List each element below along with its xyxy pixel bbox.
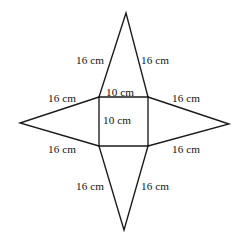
- label-top-triangle-right-edge: 16 cm: [141, 54, 169, 66]
- label-right-triangle-lower-edge: 16 cm: [172, 143, 200, 155]
- label-left-triangle-lower-edge: 16 cm: [48, 143, 76, 155]
- label-bottom-triangle-right-edge: 16 cm: [141, 180, 169, 192]
- label-top-triangle-left-edge: 16 cm: [76, 54, 104, 66]
- label-bottom-triangle-left-edge: 16 cm: [76, 180, 104, 192]
- right-triangle-shape: [148, 97, 229, 146]
- label-left-triangle-upper-edge: 16 cm: [48, 92, 76, 104]
- label-square-interior-side: 10 cm: [103, 114, 131, 126]
- label-right-triangle-upper-edge: 16 cm: [172, 92, 200, 104]
- label-square-top-side: 10 cm: [106, 86, 134, 98]
- left-triangle-shape: [20, 97, 99, 146]
- net-diagram-figure: 16 cm 16 cm 16 cm 16 cm 16 cm 16 cm 16 c…: [0, 0, 240, 243]
